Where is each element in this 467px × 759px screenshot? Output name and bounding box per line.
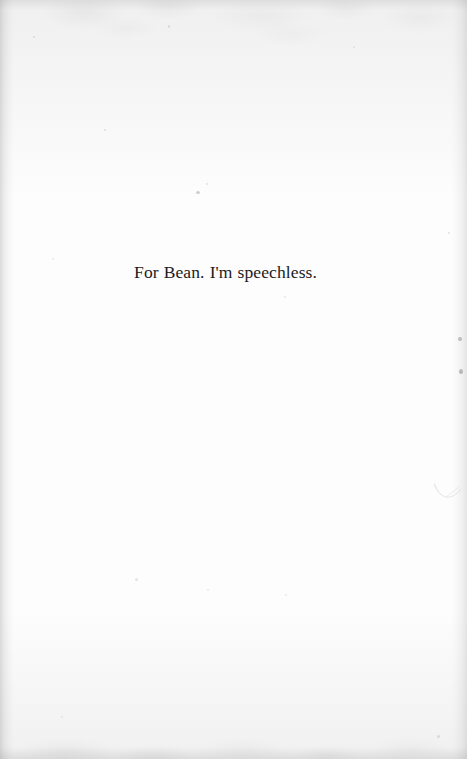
paper-background [0,0,467,759]
dedication-text: For Bean. I'm speechless. [134,262,317,282]
book-page: For Bean. I'm speechless. [0,0,467,759]
dedication-block: For Bean. I'm speechless. [0,262,451,282]
